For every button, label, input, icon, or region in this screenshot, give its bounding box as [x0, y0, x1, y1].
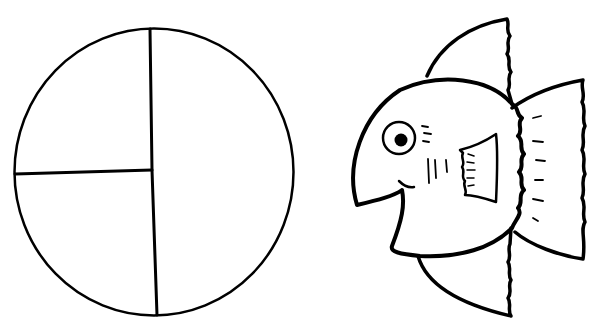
- eye-pupil: [395, 134, 408, 147]
- vertical-divider: [150, 29, 157, 315]
- drawing-canvas: [0, 0, 604, 335]
- side-fin: [460, 134, 497, 202]
- tail-fin: [512, 80, 585, 259]
- side-fin-lines: [467, 154, 475, 186]
- divided-circle: [15, 29, 294, 316]
- fish-body: [353, 80, 524, 257]
- fish: [353, 19, 585, 316]
- gill-lines: [428, 159, 447, 183]
- eye-lines: [422, 126, 431, 142]
- tail-lines: [533, 116, 545, 221]
- mouth-curve: [399, 181, 414, 187]
- horizontal-divider: [15, 170, 152, 174]
